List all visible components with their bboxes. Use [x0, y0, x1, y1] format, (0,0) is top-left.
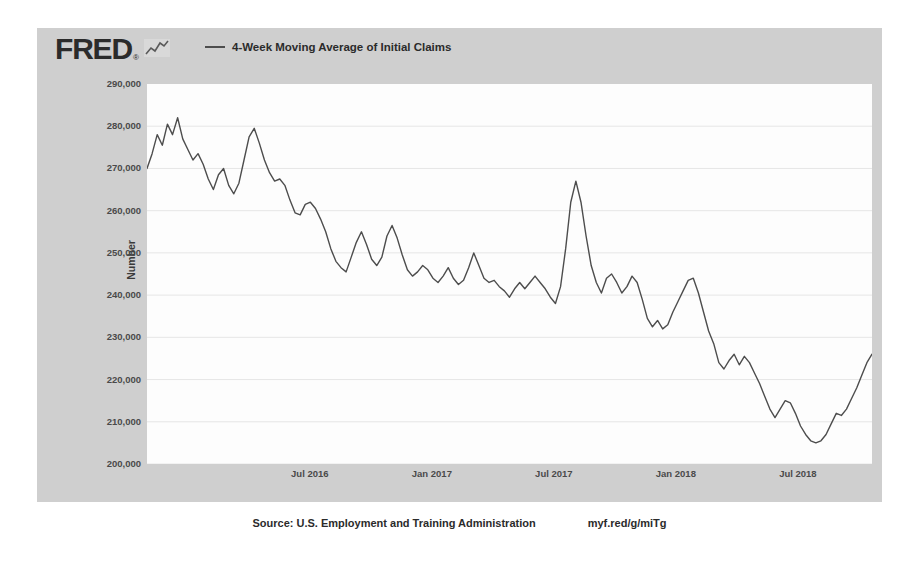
- y-tick-label: 240,000: [79, 289, 141, 300]
- sparkline-icon: [144, 39, 170, 61]
- shortlink[interactable]: myf.red/g/miTg: [588, 517, 667, 529]
- x-tick-label: Jan 2017: [392, 468, 472, 479]
- fred-logo: FRED ®: [55, 34, 170, 64]
- plot-area: [147, 84, 872, 464]
- y-tick-label: 260,000: [79, 205, 141, 216]
- y-tick-label: 220,000: [79, 374, 141, 385]
- x-tick-label: Jan 2018: [636, 468, 716, 479]
- chart-legend: 4-Week Moving Average of Initial Claims: [205, 41, 451, 53]
- y-tick-label: 230,000: [79, 331, 141, 342]
- x-tick-label: Jul 2018: [758, 468, 838, 479]
- x-tick-label: Jul 2017: [514, 468, 594, 479]
- chart-footer: Source: U.S. Employment and Training Adm…: [37, 508, 882, 538]
- gridlines: [147, 126, 872, 464]
- y-tick-label: 280,000: [79, 120, 141, 131]
- y-tick-label: 210,000: [79, 416, 141, 427]
- registered-mark: ®: [133, 53, 139, 62]
- series-line-initial-claims: [147, 118, 872, 443]
- chart-header: FRED ® 4-Week Moving Average of Initial …: [37, 28, 882, 68]
- x-axis-tick-labels: Jul 2016Jan 2017Jul 2017Jan 2018Jul 2018: [147, 468, 872, 488]
- legend-swatch-icon: [205, 46, 225, 48]
- y-tick-label: 270,000: [79, 162, 141, 173]
- series-plot: [147, 84, 872, 464]
- fred-chart-figure: FRED ® 4-Week Moving Average of Initial …: [0, 0, 918, 562]
- y-axis-tick-labels: 290,000280,000270,000260,000250,000240,0…: [71, 84, 141, 464]
- source-note: Source: U.S. Employment and Training Adm…: [252, 517, 535, 529]
- chart-card: FRED ® 4-Week Moving Average of Initial …: [37, 28, 882, 502]
- y-tick-label: 200,000: [79, 458, 141, 469]
- x-tick-label: Jul 2016: [270, 468, 350, 479]
- y-tick-label: 290,000: [79, 78, 141, 89]
- fred-wordmark: FRED: [55, 34, 132, 64]
- legend-label: 4-Week Moving Average of Initial Claims: [232, 41, 451, 53]
- y-tick-label: 250,000: [79, 247, 141, 258]
